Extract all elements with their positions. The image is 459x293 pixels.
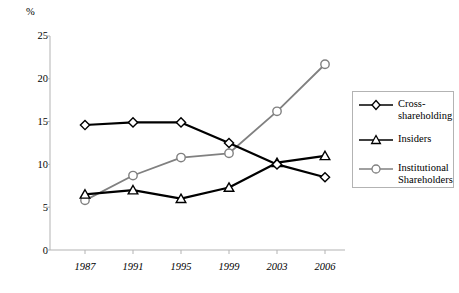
series-insiders	[80, 151, 330, 202]
legend-label-institutional-shareholders: Institutional Shareholders	[395, 162, 453, 185]
legend-item-insiders: Insiders	[357, 133, 431, 147]
legend-item-institutional-shareholders: Institutional Shareholders	[357, 162, 453, 185]
diamond-marker-icon	[357, 98, 395, 112]
line-chart: % 25 20 15 10 5 0 1987 1991 1995 1999 20…	[0, 0, 459, 293]
circle-marker-icon	[357, 162, 395, 176]
axis-lines	[46, 36, 345, 254]
series-lines	[80, 60, 330, 205]
legend-label-insiders: Insiders	[395, 133, 431, 145]
legend: Cross- shareholding Insiders Institution…	[352, 91, 454, 188]
legend-item-cross-shareholding: Cross- shareholding	[357, 98, 452, 121]
legend-label-cross-shareholding: Cross- shareholding	[395, 98, 452, 121]
series-cross-shareholding	[80, 118, 329, 182]
triangle-marker-icon	[357, 133, 395, 147]
